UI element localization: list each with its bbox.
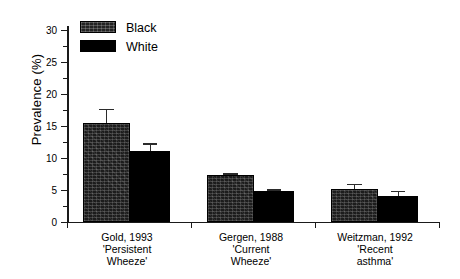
bar-group2-white — [254, 191, 294, 222]
y-tick-label-25: 25 — [29, 58, 57, 68]
errorbar-cap-group2-black — [223, 173, 238, 174]
x-group-label-1-line1: Gold, 1993 — [57, 231, 197, 243]
y-tick-label-0: 0 — [29, 218, 57, 228]
y-minor-tick-22_5 — [63, 78, 67, 79]
y-minor-tick-7_5 — [63, 174, 67, 175]
x-group-label-1-line2: 'Persistent — [57, 243, 197, 255]
y-minor-tick-2_5 — [63, 206, 67, 207]
x-tick-2 — [315, 222, 316, 228]
x-group-label-1: Gold, 1993 'Persistent Wheeze' — [57, 231, 197, 268]
bar-group2-black — [207, 175, 254, 222]
x-tick-3 — [439, 222, 440, 228]
errorbar-cap-group3-white — [391, 191, 405, 192]
y-tick-label-5: 5 — [29, 186, 57, 196]
x-group-label-2: Gergen, 1988 'Current Wheeze' — [181, 231, 321, 268]
y-tick-label-10: 10 — [29, 154, 57, 164]
x-group-label-2-line1: Gergen, 1988 — [181, 231, 321, 243]
errorbar-cap-group3-black — [347, 184, 362, 185]
y-tick-30 — [61, 30, 67, 31]
y-tick-25 — [61, 62, 67, 63]
y-tick-label-20: 20 — [29, 90, 57, 100]
legend-swatch-white — [80, 40, 116, 52]
y-minor-tick-12_5 — [63, 142, 67, 143]
errorbar-cap-group1-white — [143, 143, 157, 144]
y-tick-15 — [61, 126, 67, 127]
legend-label-black: Black — [126, 22, 157, 35]
y-axis-label: Prevalence (%) — [29, 30, 44, 170]
x-group-label-3: Weitzman, 1992 'Recent asthma' — [305, 231, 445, 268]
y-tick-10 — [61, 158, 67, 159]
bar-chart-figure: Prevalence (%) 30 25 20 15 10 5 0 Gold, … — [0, 0, 460, 279]
y-axis-line — [67, 26, 69, 222]
x-group-label-2-line2: 'Current — [181, 243, 321, 255]
x-tick-0 — [67, 222, 68, 228]
legend-label-white: White — [126, 41, 158, 54]
errorbar-cap-group2-white — [267, 189, 281, 190]
x-group-label-3-line2: 'Recent — [305, 243, 445, 255]
y-tick-5 — [61, 190, 67, 191]
x-group-label-2-line3: Wheeze' — [181, 255, 321, 267]
x-group-label-3-line3: asthma' — [305, 255, 445, 267]
y-minor-tick-27_5 — [63, 46, 67, 47]
y-tick-20 — [61, 94, 67, 95]
y-tick-label-15: 15 — [29, 122, 57, 132]
x-group-label-1-line3: Wheeze' — [57, 255, 197, 267]
bar-group1-white — [130, 151, 170, 222]
y-tick-label-30: 30 — [29, 26, 57, 36]
bar-group3-black — [331, 189, 378, 222]
errorbar-cap-group1-black — [99, 109, 114, 110]
x-tick-1 — [191, 222, 192, 228]
x-group-label-3-line1: Weitzman, 1992 — [305, 231, 445, 243]
errorbar-stem-group1-black — [106, 109, 107, 123]
legend-swatch-black — [80, 21, 116, 33]
bar-group3-white — [378, 196, 418, 222]
y-minor-tick-17_5 — [63, 110, 67, 111]
bar-group1-black — [83, 123, 130, 222]
